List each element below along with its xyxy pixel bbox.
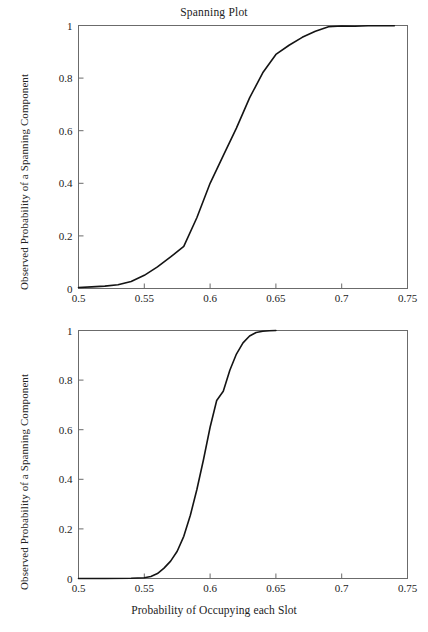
x-tick-label: 0.65 [266,582,286,594]
x-tick-label: 0.7 [335,292,349,304]
x-tick-label: 0.6 [203,292,217,304]
y-tick-label: 0.6 [59,424,73,436]
x-tick-label: 0.55 [135,292,155,304]
chart-panel-bottom: Observed Probability of a Spanning Compo… [0,312,428,632]
y-tick-label: 1 [67,20,73,32]
chart-panel-top: Spanning Plot Observed Probability of a … [0,0,428,312]
y-tick-label: 0.4 [59,473,73,485]
y-tick-label: 0.6 [59,125,73,137]
y-tick-label: 0.8 [59,72,73,84]
x-tick-label: 0.65 [266,292,286,304]
y-tick-label: 0.8 [59,374,73,386]
data-series-line [79,331,276,579]
data-series-line [79,26,395,288]
plot-frame [79,331,408,579]
x-tick-label: 0.5 [72,292,86,304]
y-tick-label: 0 [67,573,73,585]
figure-page: Spanning Plot Observed Probability of a … [0,0,428,632]
x-tick-label: 0.7 [335,582,349,594]
plot-frame [79,26,408,289]
x-tick-label: 0.75 [398,582,418,594]
y-tick-label: 0.4 [59,177,73,189]
x-tick-label: 0.55 [135,582,155,594]
y-tick-label: 1 [67,325,73,337]
y-tick-label: 0.2 [59,523,73,535]
y-tick-label: 0.2 [59,230,73,242]
x-tick-label: 0.6 [203,582,217,594]
plot-area-top: 0.50.550.60.650.70.7500.20.40.60.81 [0,0,428,312]
plot-area-bottom: 0.50.550.60.650.70.7500.20.40.60.81 [0,312,428,632]
y-tick-label: 0 [67,283,73,295]
x-axis-label-bottom: Probability of Occupying each Slot [0,604,428,616]
x-tick-label: 0.5 [72,582,86,594]
x-tick-label: 0.75 [398,292,418,304]
